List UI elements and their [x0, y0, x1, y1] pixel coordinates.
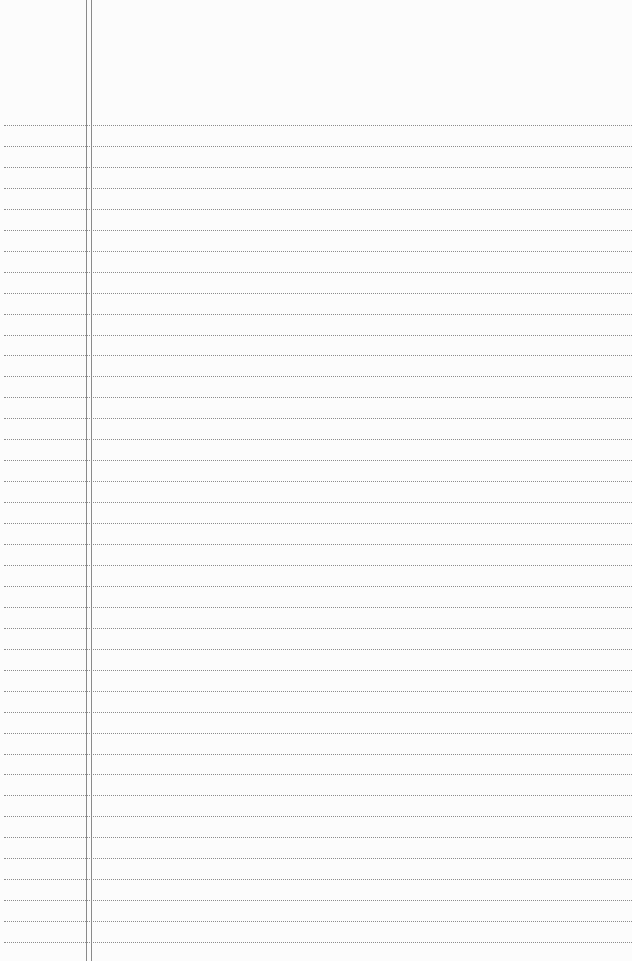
ruled-line [4, 335, 632, 336]
ruled-line [4, 251, 632, 252]
ruled-line [4, 481, 632, 482]
ruled-line [4, 272, 632, 273]
ruled-line [4, 355, 632, 356]
ruled-line [4, 712, 632, 713]
ruled-line [4, 418, 632, 419]
margin-line [91, 0, 92, 961]
ruled-line [4, 146, 632, 147]
ruled-line [4, 649, 632, 650]
ruled-line [4, 293, 632, 294]
ruled-line [4, 523, 632, 524]
margin-line [86, 0, 87, 961]
ruled-line [4, 754, 632, 755]
lined-paper-sheet [0, 0, 632, 961]
ruled-line [4, 795, 632, 796]
ruled-line [4, 376, 632, 377]
ruled-line [4, 460, 632, 461]
ruled-line [4, 816, 632, 817]
ruled-line [4, 439, 632, 440]
ruled-line [4, 733, 632, 734]
ruled-line [4, 628, 632, 629]
ruled-line [4, 188, 632, 189]
ruled-line [4, 209, 632, 210]
ruled-line [4, 858, 632, 859]
ruled-line [4, 900, 632, 901]
ruled-line [4, 125, 632, 126]
ruled-line [4, 586, 632, 587]
ruled-line [4, 167, 632, 168]
ruled-line [4, 502, 632, 503]
ruled-line [4, 565, 632, 566]
ruled-line [4, 691, 632, 692]
ruled-line [4, 921, 632, 922]
ruled-line [4, 230, 632, 231]
ruled-line [4, 607, 632, 608]
ruled-line [4, 879, 632, 880]
ruled-line [4, 397, 632, 398]
ruled-line [4, 544, 632, 545]
ruled-line [4, 837, 632, 838]
ruled-line [4, 942, 632, 943]
ruled-line [4, 314, 632, 315]
ruled-line [4, 670, 632, 671]
ruled-line [4, 774, 632, 775]
